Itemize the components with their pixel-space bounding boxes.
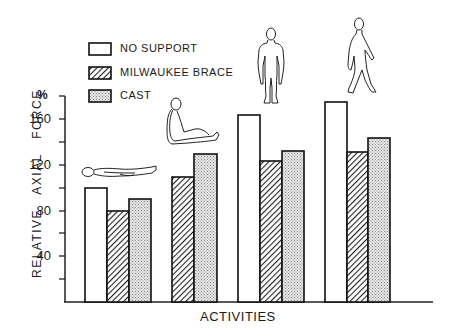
bar-cast-walking xyxy=(368,138,390,302)
legend-swatch-milwaukee xyxy=(89,67,111,79)
y-axis-title: RELATIVE AXIAL FORCE xyxy=(30,128,44,278)
bar-milwaukee-standing xyxy=(260,161,282,302)
legend-swatch-no-support xyxy=(89,43,111,55)
lying-figure-icon xyxy=(82,166,156,177)
bar-cast-lying xyxy=(129,199,151,302)
walking-figure-icon xyxy=(348,18,376,93)
chart-canvas xyxy=(0,0,450,336)
y-axis xyxy=(59,96,65,302)
bar-group-lying xyxy=(85,188,151,302)
bar-no-support-standing xyxy=(238,115,260,302)
legend xyxy=(89,43,111,102)
bar-group-sitting xyxy=(172,154,217,302)
sitting-figure-icon xyxy=(167,98,219,144)
bar-milwaukee-lying xyxy=(107,211,129,302)
bar-no-support-lying xyxy=(85,188,107,302)
legend-label-no-support: NO SUPPORT xyxy=(120,42,198,54)
bar-group-walking xyxy=(325,102,390,302)
standing-figure-icon xyxy=(258,28,284,103)
bar-group-standing xyxy=(238,115,304,302)
bar-cast-standing xyxy=(282,151,304,302)
bar-no-support-walking xyxy=(325,102,347,302)
bar-milwaukee-walking xyxy=(347,152,368,302)
bar-cast-sitting xyxy=(194,154,217,302)
bar-milwaukee-sitting xyxy=(172,177,194,302)
legend-swatch-cast xyxy=(89,90,111,102)
x-axis-title: ACTIVITIES xyxy=(200,309,276,324)
legend-label-milwaukee: MILWAUKEE BRACE xyxy=(120,66,233,78)
legend-label-cast: CAST xyxy=(120,89,151,101)
